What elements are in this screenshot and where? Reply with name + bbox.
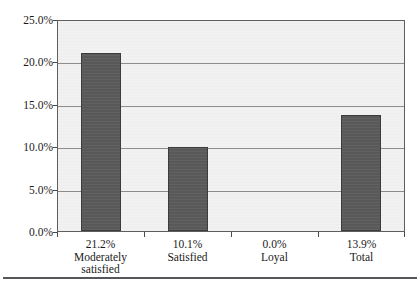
x-tick-mark-2: [231, 232, 232, 237]
x-tick-mark-3: [318, 232, 319, 237]
y-tick-label-10: 10.0%: [0, 141, 53, 153]
category-label-moderately-satisfied: 21.2% Moderately satisfied: [57, 238, 144, 276]
y-tick-label-0: 0.0%: [0, 226, 53, 238]
x-tick-mark-0: [57, 232, 58, 237]
bar-satisfied: [168, 147, 208, 231]
y-tick-label-15: 15.0%: [0, 99, 53, 111]
category-label-total: 13.9% Total: [318, 238, 405, 263]
category-label-loyal: 0.0% Loyal: [231, 238, 318, 263]
y-tick-label-25: 25.0%: [0, 14, 53, 26]
y-tick-label-20: 20.0%: [0, 56, 53, 68]
bar-chart-figure: 25.0% 20.0% 15.0% 10.0% 5.0% 0.0% 21.2% …: [0, 0, 420, 290]
y-axis-labels: 25.0% 20.0% 15.0% 10.0% 5.0% 0.0%: [0, 0, 53, 290]
x-tick-mark-1: [144, 232, 145, 237]
bar-moderately-satisfied: [81, 53, 121, 231]
x-tick-mark-4: [404, 232, 405, 237]
bar-total: [341, 115, 381, 231]
plot-area: [57, 20, 405, 232]
bottom-divider-rule: [3, 277, 417, 279]
y-tick-label-5: 5.0%: [0, 184, 53, 196]
category-label-satisfied: 10.1% Satisfied: [144, 238, 231, 263]
